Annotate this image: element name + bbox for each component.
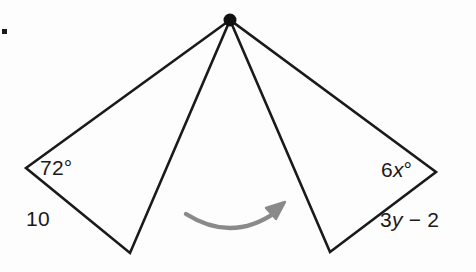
geometry-figure: 72° 10 6x° 3y − 2 xyxy=(0,0,476,272)
right-angle-variable: x xyxy=(393,158,404,181)
left-triangle xyxy=(26,20,230,253)
left-triangle-outline xyxy=(26,20,230,253)
right-angle-label: 6x° xyxy=(381,159,412,180)
apex-vertex-dot xyxy=(224,14,237,27)
right-angle-coefficient: 6 xyxy=(381,158,393,181)
right-angle-degree-symbol: ° xyxy=(404,158,413,181)
left-side-length-label: 10 xyxy=(26,208,50,229)
correspondence-arrow-curve xyxy=(186,212,276,228)
right-side-variable: y xyxy=(392,208,403,231)
left-angle-label: 72° xyxy=(40,157,72,178)
right-side-constant-term: − 2 xyxy=(403,208,439,231)
right-side-length-label: 3y − 2 xyxy=(380,209,439,230)
geometry-svg-canvas xyxy=(0,0,476,272)
right-side-coefficient: 3 xyxy=(380,208,392,231)
correspondence-arrow-icon xyxy=(186,202,285,228)
